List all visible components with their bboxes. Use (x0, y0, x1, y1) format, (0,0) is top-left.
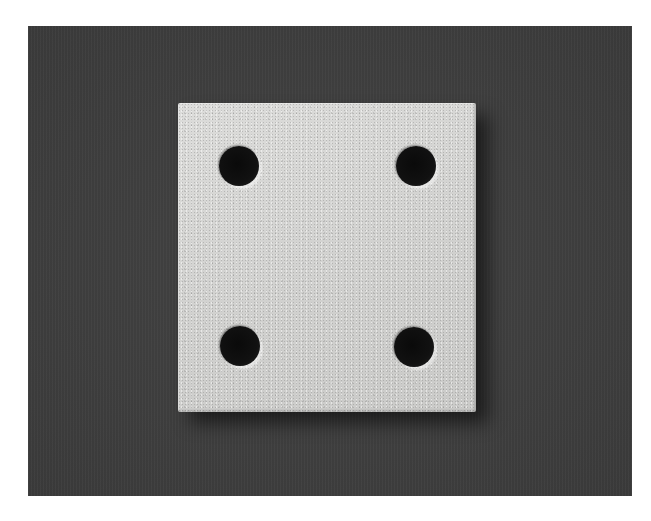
ceramic-plate (178, 103, 476, 412)
hole-bottom-left (220, 326, 260, 366)
hole-top-right (396, 146, 436, 186)
hole-top-left (219, 146, 259, 186)
hole-bottom-right (394, 327, 434, 367)
